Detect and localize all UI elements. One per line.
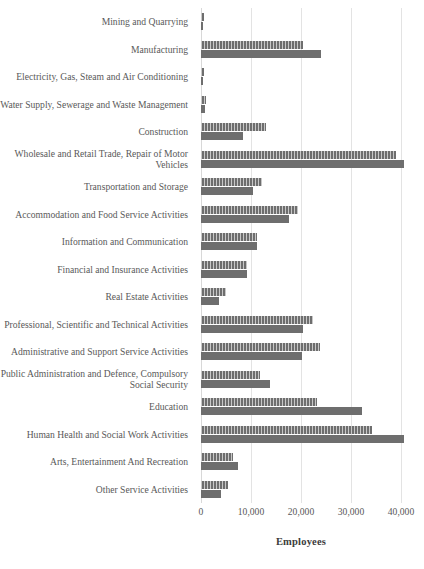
bar-group — [201, 228, 401, 256]
bar-track — [201, 215, 401, 223]
x-tick-label-20000: 20,000 — [288, 505, 314, 519]
category-label-text: Accommodation and Food Service Activitie… — [15, 209, 188, 221]
bar-series-a — [201, 481, 228, 489]
bar-series-b — [201, 297, 219, 305]
bar-series-a — [201, 316, 313, 324]
employees-by-industry-bar-chart: Mining and QuarryingManufacturingElectri… — [0, 0, 424, 569]
x-axis-tick-labels: 010,00020,00030,00040,000 — [201, 505, 401, 523]
bar-rows — [201, 8, 401, 503]
bar-group — [201, 283, 401, 311]
bar-series-a — [201, 343, 320, 351]
category-label: Construction — [0, 118, 193, 146]
bar-track — [201, 426, 401, 434]
bar-series-a — [201, 206, 298, 214]
bar-series-b — [201, 160, 404, 168]
category-label-text: Arts, Entertainment And Recreation — [50, 456, 188, 468]
bar-track — [201, 343, 401, 351]
x-tick-label-30000: 30,000 — [338, 505, 364, 519]
bar-track — [201, 490, 401, 498]
category-label-text: Manufacturing — [131, 44, 188, 56]
bar-track — [201, 77, 401, 85]
bar-series-b — [201, 242, 257, 250]
category-label-text: Education — [149, 401, 188, 413]
category-label-text: Construction — [138, 126, 188, 138]
bar-series-a — [201, 261, 247, 269]
bar-series-a — [201, 426, 372, 434]
category-label: Real Estate Activities — [0, 283, 193, 311]
bar-track — [201, 206, 401, 214]
bar-series-b — [201, 462, 238, 470]
category-label: Financial and Insurance Activities — [0, 256, 193, 284]
category-label: Arts, Entertainment And Recreation — [0, 448, 193, 476]
category-label: Human Health and Social Work Activities — [0, 421, 193, 449]
category-label-text: Administrative and Support Service Activ… — [11, 346, 188, 358]
bar-series-a — [201, 68, 204, 76]
bar-track — [201, 453, 401, 461]
bar-group — [201, 311, 401, 339]
bar-group — [201, 146, 401, 174]
gridline-40000 — [401, 8, 402, 503]
bar-series-b — [201, 380, 270, 388]
category-label: Education — [0, 393, 193, 421]
bar-track — [201, 22, 401, 30]
bar-series-b — [201, 490, 221, 498]
bar-track — [201, 132, 401, 140]
bar-track — [201, 96, 401, 104]
x-axis-title: Employees — [201, 536, 401, 547]
bar-series-b — [201, 270, 247, 278]
bar-track — [201, 352, 401, 360]
bar-track — [201, 233, 401, 241]
bar-track — [201, 380, 401, 388]
bar-group — [201, 476, 401, 504]
category-label: Public Administration and Defence, Compu… — [0, 366, 193, 394]
bar-series-b — [201, 50, 321, 58]
bar-series-b — [201, 77, 203, 85]
category-label: Transportation and Storage — [0, 173, 193, 201]
category-label-text: Information and Communication — [62, 236, 188, 248]
bar-track — [201, 242, 401, 250]
category-label-text: Other Service Activities — [96, 484, 188, 496]
category-label: Electricity, Gas, Steam and Air Conditio… — [0, 63, 193, 91]
category-label-text: Transportation and Storage — [84, 181, 188, 193]
category-label-text: Public Administration and Defence, Compu… — [0, 368, 188, 391]
bar-track — [201, 41, 401, 49]
bar-track — [201, 407, 401, 415]
bar-track — [201, 105, 401, 113]
bar-track — [201, 316, 401, 324]
bar-group — [201, 91, 401, 119]
bar-group — [201, 366, 401, 394]
bar-series-b — [201, 407, 362, 415]
bar-track — [201, 160, 401, 168]
category-label-text: Professional, Scientific and Technical A… — [4, 319, 188, 331]
x-tick-label-10000: 10,000 — [238, 505, 264, 519]
bar-series-b — [201, 435, 404, 443]
x-tick-label-40000: 40,000 — [388, 505, 414, 519]
bar-series-a — [201, 96, 206, 104]
bar-series-a — [201, 151, 396, 159]
category-label: Other Service Activities — [0, 476, 193, 504]
bar-series-a — [201, 371, 260, 379]
category-label: Wholesale and Retail Trade, Repair of Mo… — [0, 146, 193, 174]
x-tick-label-0: 0 — [199, 505, 204, 519]
category-label: Administrative and Support Service Activ… — [0, 338, 193, 366]
category-label-text: Human Health and Social Work Activities — [27, 429, 188, 441]
category-label: Mining and Quarrying — [0, 8, 193, 36]
bar-series-b — [201, 352, 302, 360]
bar-series-a — [201, 178, 262, 186]
bar-track — [201, 50, 401, 58]
bar-track — [201, 435, 401, 443]
bar-track — [201, 68, 401, 76]
category-label: Water Supply, Sewerage and Waste Managem… — [0, 91, 193, 119]
bar-series-b — [201, 132, 243, 140]
category-label: Accommodation and Food Service Activitie… — [0, 201, 193, 229]
bar-series-b — [201, 187, 253, 195]
bar-track — [201, 151, 401, 159]
bar-track — [201, 398, 401, 406]
bar-track — [201, 325, 401, 333]
category-label: Manufacturing — [0, 36, 193, 64]
bar-series-b — [201, 105, 205, 113]
category-label-text: Real Estate Activities — [105, 291, 188, 303]
bar-track — [201, 270, 401, 278]
bar-series-a — [201, 453, 233, 461]
category-label: Professional, Scientific and Technical A… — [0, 311, 193, 339]
